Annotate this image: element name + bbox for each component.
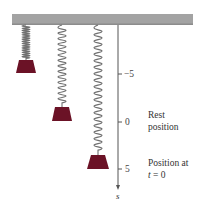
initial-position-label-line2: t = 0 bbox=[148, 170, 166, 181]
rest-position-label-line2: position bbox=[148, 122, 179, 133]
tick-label-0: 0 bbox=[125, 117, 130, 127]
tick-label-minus-5: −5 bbox=[124, 69, 134, 79]
weight-initial bbox=[87, 155, 109, 169]
time-equals-zero: = 0 bbox=[151, 170, 166, 180]
spring-rest bbox=[58, 25, 66, 107]
springs bbox=[22, 25, 102, 155]
tick-label-5: 5 bbox=[125, 164, 130, 174]
ceiling-edge bbox=[12, 24, 193, 26]
spring-compressed bbox=[22, 25, 30, 60]
spring-stretched bbox=[94, 25, 102, 155]
rest-position-label-line1: Rest bbox=[148, 110, 165, 121]
s-axis bbox=[116, 25, 122, 190]
weights bbox=[16, 60, 109, 169]
ceiling bbox=[12, 14, 193, 25]
weight-rest bbox=[52, 107, 72, 121]
axis-arrow-icon bbox=[116, 185, 120, 190]
weight-compressed bbox=[16, 60, 36, 73]
axis-variable-s: s bbox=[116, 191, 120, 201]
initial-position-label-line1: Position at bbox=[148, 158, 188, 169]
spring-diagram bbox=[0, 0, 203, 212]
ceiling-bar bbox=[12, 14, 193, 25]
